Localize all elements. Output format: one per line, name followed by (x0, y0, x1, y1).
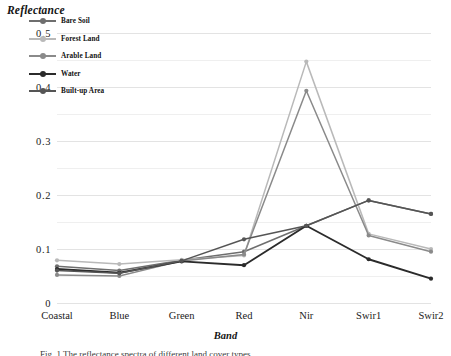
x-tick-label: Nir (299, 310, 313, 321)
data-point (242, 237, 246, 241)
y-tick-label: 0 (45, 298, 51, 309)
data-point (55, 269, 59, 273)
data-point (304, 89, 308, 93)
y-tick-label: 0.3 (36, 136, 51, 147)
data-point (429, 250, 433, 254)
x-tick-label: Swir2 (418, 310, 443, 321)
legend-swatch-icon (29, 51, 56, 61)
legend-swatch-icon (29, 16, 56, 26)
data-point (180, 259, 184, 263)
y-tick-label: 0.2 (36, 190, 51, 201)
data-point (429, 212, 433, 216)
x-tick-label: Blue (109, 310, 129, 321)
legend-item-arable-land[interactable]: Arable Land (29, 51, 104, 61)
x-tick-label: Red (236, 310, 253, 321)
series-line (57, 62, 431, 265)
gridline-major (57, 303, 431, 304)
figure-caption: Fig. 1 The reflectance spectra of differ… (40, 349, 440, 356)
legend-item-water[interactable]: Water (29, 69, 104, 79)
legend-item-bare-soil[interactable]: Bare Soil (29, 16, 104, 26)
series-forest-land (55, 60, 433, 267)
legend-label: Water (61, 70, 81, 78)
data-point (367, 198, 371, 202)
plot-area: 00.10.20.30.40.5 CoastalBlueGreenRedNirS… (57, 33, 431, 303)
series-lines (57, 33, 431, 303)
legend-swatch-icon (29, 69, 56, 79)
legend-label: Bare Soil (61, 17, 90, 25)
legend-label: Arable Land (61, 52, 101, 60)
legend-item-built-up-area[interactable]: Built-up Area (29, 86, 104, 96)
series-line (57, 91, 431, 276)
data-point (304, 224, 308, 228)
x-tick-label: Coastal (41, 310, 73, 321)
legend-swatch-icon (29, 34, 56, 44)
data-point (304, 60, 308, 64)
legend-label: Forest Land (61, 35, 100, 43)
data-point (367, 233, 371, 237)
data-point (117, 262, 121, 266)
legend-item-forest-land[interactable]: Forest Land (29, 34, 104, 44)
x-tick-label: Swir1 (356, 310, 381, 321)
y-axis-title: Reflectance (7, 4, 65, 16)
data-point (242, 263, 246, 267)
data-point (429, 277, 433, 281)
x-axis-title: Band (0, 330, 451, 341)
y-tick-label: 0.1 (36, 244, 51, 255)
legend-label: Built-up Area (61, 87, 104, 95)
legend: Bare SoilForest LandArable LandWaterBuil… (29, 16, 104, 96)
reflectance-line-chart-figure: Reflectance 00.10.20.30.40.5 CoastalBlue… (0, 0, 451, 356)
legend-swatch-icon (29, 86, 56, 96)
data-point (55, 273, 59, 277)
data-point (55, 258, 59, 262)
data-point (242, 252, 246, 256)
data-point (117, 271, 121, 275)
x-tick-label: Green (169, 310, 195, 321)
data-point (367, 257, 371, 261)
